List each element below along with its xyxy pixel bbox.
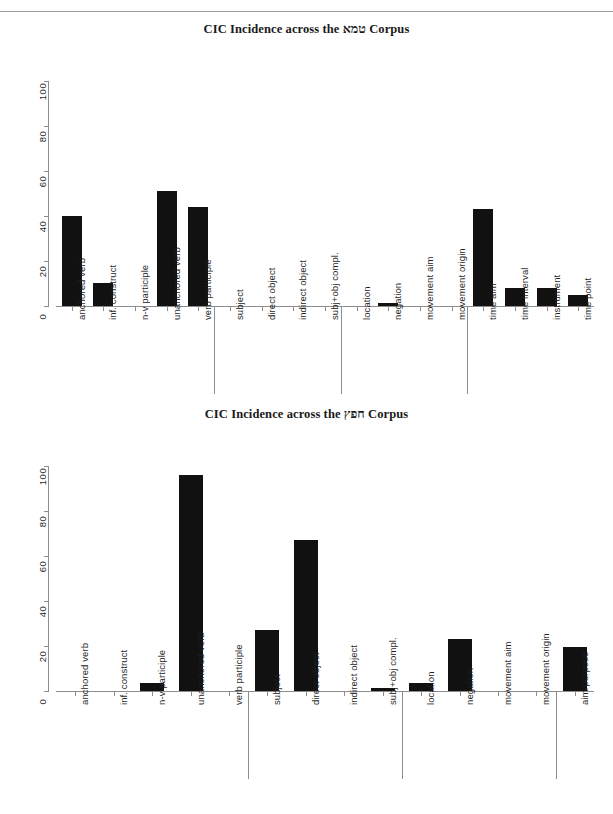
x-axis-tick xyxy=(306,692,307,696)
x-axis-label: subject xyxy=(234,289,245,320)
group-separator xyxy=(248,691,249,779)
y-axis-tick-label: 100 xyxy=(37,80,48,104)
x-axis-tick xyxy=(325,307,326,311)
group-separator xyxy=(467,306,468,394)
x-axis-tick xyxy=(293,307,294,311)
x-axis-label: movement aim xyxy=(424,257,435,321)
x-axis-tick xyxy=(498,692,499,696)
x-axis-tick xyxy=(344,692,345,696)
x-axis-tick xyxy=(229,692,230,696)
x-axis-label: negation xyxy=(392,283,403,320)
y-axis-line xyxy=(48,81,49,307)
x-axis-label: direct object xyxy=(310,652,321,705)
figure-chefetz: CIC Incidence across the חפץ Corpus 0204… xyxy=(0,407,613,807)
y-axis-line xyxy=(48,466,49,692)
chart-title-chefetz: CIC Incidence across the חפץ Corpus xyxy=(0,407,613,422)
x-axis-label: time point xyxy=(582,278,593,320)
y-axis-tick-label: 80 xyxy=(37,510,48,534)
x-axis-tick xyxy=(383,692,384,696)
group-separator xyxy=(341,306,342,394)
x-axis-label: unanchored verb xyxy=(195,632,206,705)
x-axis-tick xyxy=(483,307,484,311)
x-axis-label: indirect object xyxy=(297,260,308,320)
x-axis-tick xyxy=(575,692,576,696)
group-separator xyxy=(556,691,557,779)
x-axis-label: movement aim xyxy=(502,642,513,706)
page-header xyxy=(0,0,613,13)
x-axis-label: time interval xyxy=(519,267,530,320)
y-axis-tick-label: 60 xyxy=(37,170,48,194)
y-axis-tick-label: 60 xyxy=(37,555,48,579)
x-axis-label: inf. construct xyxy=(118,650,129,705)
y-axis-tick-label: 0 xyxy=(37,690,48,714)
x-axis-label: negation xyxy=(464,668,475,705)
x-axis-label: inf. construct xyxy=(107,265,118,320)
x-axis-tick xyxy=(75,692,76,696)
x-axis-label: verb participle xyxy=(233,644,244,705)
x-axis-label: movement origin xyxy=(456,248,467,320)
y-axis-tick-label: 80 xyxy=(37,125,48,149)
x-axis-tick xyxy=(267,692,268,696)
x-axis-tick xyxy=(460,692,461,696)
x-axis-label: subject xyxy=(271,674,282,705)
x-axis-tick xyxy=(103,307,104,311)
x-axis-label: aim/purpose xyxy=(579,652,590,705)
x-axis-tick xyxy=(388,307,389,311)
x-axis-label: time aim xyxy=(487,283,498,320)
x-axis-tick xyxy=(114,692,115,696)
x-axis-tick xyxy=(536,692,537,696)
x-axis-tick xyxy=(152,692,153,696)
x-axis-tick xyxy=(452,307,453,311)
figure-tamei: CIC Incidence across the טמא Corpus 0204… xyxy=(0,22,613,407)
x-axis-tick xyxy=(578,307,579,311)
x-axis-label: unanchored verb xyxy=(171,247,182,320)
header-divider xyxy=(0,11,613,12)
x-axis-tick xyxy=(135,307,136,311)
x-axis-tick xyxy=(72,307,73,311)
x-axis-label: direct object xyxy=(266,267,277,320)
x-axis-tick xyxy=(198,307,199,311)
x-axis-tick xyxy=(421,692,422,696)
x-axis-label: subj+obj compl. xyxy=(329,252,340,320)
x-axis-label: n-v participle xyxy=(156,650,167,705)
x-axis-label: indirect object xyxy=(348,645,359,705)
group-separator xyxy=(214,306,215,394)
x-axis-label: movement origin xyxy=(540,633,551,705)
x-axis-tick xyxy=(515,307,516,311)
y-axis-tick-label: 20 xyxy=(37,260,48,284)
y-axis-tick-label: 20 xyxy=(37,645,48,669)
x-axis-label: location xyxy=(425,671,436,705)
x-axis-label: n-v participle xyxy=(139,265,150,320)
x-axis-tick xyxy=(420,307,421,311)
x-axis-tick xyxy=(167,307,168,311)
x-axis-label: location xyxy=(361,286,372,320)
x-axis-tick xyxy=(357,307,358,311)
x-axis-tick xyxy=(262,307,263,311)
x-axis-label: instrument xyxy=(551,275,562,320)
y-axis-tick-label: 100 xyxy=(37,465,48,489)
x-axis-label: verb participle xyxy=(202,259,213,320)
group-separator xyxy=(402,691,403,779)
x-axis-label: anchored verb xyxy=(76,258,87,320)
y-axis-tick-label: 40 xyxy=(37,215,48,239)
x-axis-tick xyxy=(547,307,548,311)
y-axis-tick-label: 0 xyxy=(37,305,48,329)
x-axis-tick xyxy=(230,307,231,311)
chart-title-tamei: CIC Incidence across the טמא Corpus xyxy=(0,22,613,37)
x-axis-label: subj+obj compl. xyxy=(387,637,398,705)
plot-area-chefetz: 020406080100anchored verbinf. constructn… xyxy=(0,425,613,790)
x-axis-tick xyxy=(191,692,192,696)
x-axis-label: anchored verb xyxy=(79,643,90,705)
plot-area-tamei: 020406080100anchored verbinf. constructn… xyxy=(0,40,613,405)
y-axis-tick-label: 40 xyxy=(37,600,48,624)
